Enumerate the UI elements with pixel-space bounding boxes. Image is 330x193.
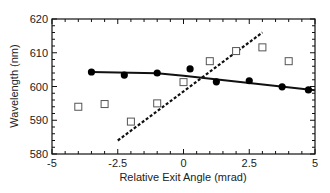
open-square-point [285, 58, 292, 65]
filled-circle-point [88, 68, 95, 75]
y-tick-label: 590 [30, 114, 48, 126]
y-tick-label: 580 [30, 148, 48, 160]
open-square-point [75, 103, 82, 110]
open-square-point [180, 79, 187, 86]
filled-circle-point [186, 65, 193, 72]
y-tick-labels: 580590600610620 [30, 13, 48, 160]
filled-circle-point [305, 86, 312, 93]
x-tick-label: -5 [47, 157, 57, 169]
x-tick-label: 0 [180, 157, 186, 169]
open-square-point [101, 101, 108, 108]
open-square-point [154, 100, 161, 107]
x-tick-labels: -5-2.502.55 [47, 157, 318, 169]
open-square-point [206, 58, 213, 65]
data-points [75, 44, 312, 125]
open-square-point [233, 48, 240, 55]
y-tick-label: 600 [30, 81, 48, 93]
open-square-point [259, 44, 266, 51]
filled-circle-point [154, 69, 161, 76]
filled-circle-point [279, 83, 286, 90]
x-tick-label: -2.5 [108, 157, 127, 169]
y-tick-label: 620 [30, 13, 48, 25]
dashed-fit-line [118, 33, 263, 141]
chart: -5-2.502.55 580590600610620 Relative Exi… [0, 0, 330, 193]
filled-circle-point [246, 77, 253, 84]
y-axis-label: Wavelength (nm) [8, 44, 20, 127]
y-tick-label: 610 [30, 47, 48, 59]
x-tick-label: 2.5 [242, 157, 257, 169]
x-tick-label: 5 [312, 157, 318, 169]
x-axis-label: Relative Exit Angle (mrad) [119, 171, 246, 183]
filled-circle-point [213, 78, 220, 85]
filled-circle-point [121, 71, 128, 78]
open-square-point [127, 118, 134, 125]
